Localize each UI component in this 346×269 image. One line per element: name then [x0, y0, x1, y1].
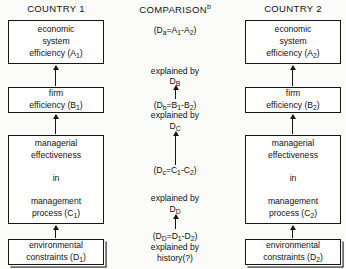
column-header-country-2: COUNTRY 2	[245, 3, 341, 14]
explained-by-label-2: explained by	[110, 110, 240, 121]
box-line: system	[42, 35, 69, 47]
arrow-left-c1-to-b1	[55, 115, 56, 134]
box-line: constraints (D2)	[263, 251, 323, 266]
box-line: effectiveness	[31, 149, 81, 161]
comparison-expression-da: (Da=A1-A2)	[110, 25, 240, 38]
comparison-label: COMPARISON	[139, 4, 207, 15]
box-line: firm	[286, 87, 300, 99]
column-header-comparison: COMPARISONb	[120, 3, 230, 15]
explained-by-label-3: explained by	[110, 193, 240, 204]
box-line: environmental	[266, 239, 320, 251]
left-managerial-effectiveness-box: managerial effectiveness in management p…	[8, 135, 104, 224]
right-managerial-effectiveness-box: managerial effectiveness in management p…	[245, 135, 341, 224]
box-line: managerial	[35, 137, 78, 149]
column-header-country-1: COUNTRY 1	[8, 3, 104, 14]
left-economic-system-efficiency-box: economic system efficiency (A1)	[8, 20, 104, 64]
box-line: effectiveness	[268, 149, 318, 161]
diagram-canvas: COUNTRY 1 COMPARISONb COUNTRY 2 economic…	[0, 0, 346, 269]
box-line: process (C2)	[269, 207, 317, 222]
box-line: in	[290, 172, 297, 184]
box-line: efficiency (A1)	[29, 47, 82, 62]
box-line: in	[53, 172, 60, 184]
box-line: economic	[275, 23, 312, 35]
box-line: firm	[49, 87, 63, 99]
right-economic-system-efficiency-box: economic system efficiency (A2)	[245, 20, 341, 64]
right-environmental-constraints-box: environmental constraints (D2)	[245, 239, 341, 265]
right-firm-efficiency-box: firm efficiency (B2)	[245, 87, 341, 113]
box-line: system	[279, 35, 306, 47]
left-firm-efficiency-box: firm efficiency (B1)	[8, 87, 104, 113]
box-line: efficiency (B1)	[29, 99, 82, 114]
comparison-expression-dc: (Dc=C1-C2)	[110, 165, 240, 178]
arrow-right-c2-to-b2	[292, 115, 293, 134]
arrow-left-b1-to-a1	[55, 66, 56, 86]
comparison-footnote-marker: b	[207, 3, 211, 10]
explained-by-label-4: explained by	[110, 242, 240, 253]
arrow-dc-expression-to-dc-term	[175, 132, 176, 165]
box-line: environmental	[29, 239, 83, 251]
box-line: economic	[38, 23, 75, 35]
arrow-dd-expression-to-dd-term	[175, 215, 176, 229]
arrow-left-d1-to-c1	[55, 226, 56, 238]
box-line: efficiency (B2)	[266, 99, 319, 114]
box-line: managerial	[272, 137, 315, 149]
box-line: efficiency (A2)	[266, 47, 319, 62]
arrow-right-b2-to-a2	[292, 66, 293, 86]
box-line: constraints (D1)	[26, 251, 86, 266]
box-line: management	[268, 195, 318, 207]
history-explanation-label: history(?)	[110, 253, 240, 264]
box-line: process (C1)	[32, 207, 80, 222]
arrow-db-expression-to-db-term	[175, 86, 176, 99]
box-line: management	[31, 195, 81, 207]
arrow-right-d2-to-c2	[292, 226, 293, 238]
left-environmental-constraints-box: environmental constraints (D1)	[8, 239, 104, 265]
